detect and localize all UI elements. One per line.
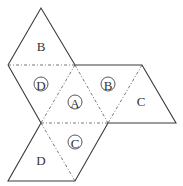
face-label-A-circled: A [68,95,82,111]
face-label-B-circled: B [101,77,115,93]
label-text: A [70,96,80,111]
label-text: D [36,78,45,93]
fold-line [75,65,108,123]
face-label-D-circled: D [34,77,48,93]
net-diagram: B D A B C C D [0,0,183,186]
face-label-top-B: B [37,39,46,54]
label-text: C [71,136,80,151]
face-label-right-C: C [137,94,146,109]
label-text: B [37,39,46,54]
label-text: B [104,78,113,93]
label-text: C [137,94,146,109]
fold-line [41,123,75,181]
face-label-C-circled: C [68,135,82,151]
face-label-bottom-D: D [36,153,45,168]
edge-top-B [8,8,176,123]
fold-line [41,65,75,123]
label-text: D [36,153,45,168]
